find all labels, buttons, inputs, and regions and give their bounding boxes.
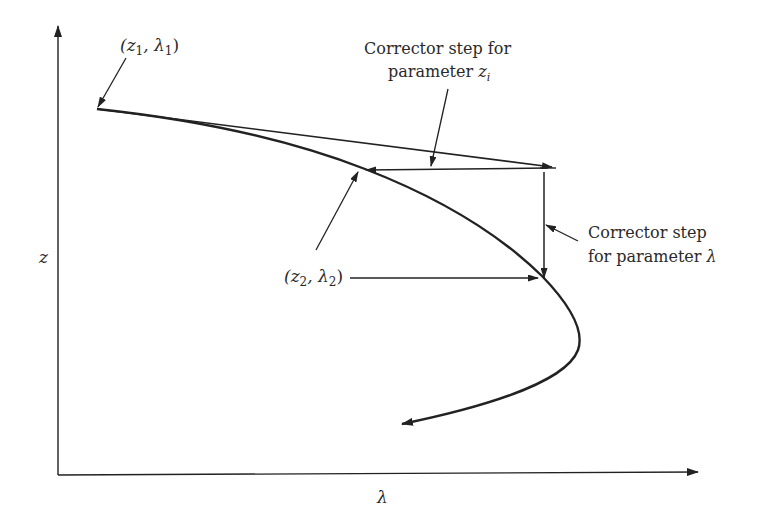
corrected-point-pointer-up bbox=[316, 172, 358, 250]
lambda-axis-label: λ bbox=[376, 487, 388, 507]
corrector-lambda-label-line1: Corrector step bbox=[588, 223, 707, 242]
corrector-z-label-line1: Corrector step for bbox=[364, 39, 511, 58]
predictor-tangent-line bbox=[97, 109, 552, 167]
lambda-axis bbox=[58, 472, 698, 475]
corrector-z-pointer bbox=[431, 89, 448, 166]
corrected-point-label: (z2, λ2) bbox=[284, 266, 343, 289]
corrector-z-label-line2: parameter zi bbox=[388, 62, 490, 84]
corrector-lambda-pointer bbox=[546, 225, 578, 241]
start-point-pointer bbox=[98, 58, 126, 107]
z-axis-label: z bbox=[38, 247, 49, 267]
continuation-diagram: z λ (z1, λ1) (z2, λ2) Corrector step for… bbox=[0, 0, 765, 530]
corrector-lambda-label-line2: for parameter λ bbox=[588, 247, 717, 266]
corrector-z-arrow bbox=[366, 168, 548, 170]
start-point-label: (z1, λ1) bbox=[120, 35, 179, 58]
